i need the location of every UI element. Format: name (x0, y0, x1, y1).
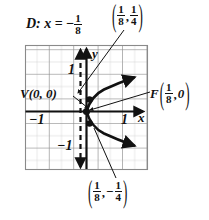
tick-label-x-negative: −1 (29, 112, 44, 128)
directrix-variable: x (44, 16, 51, 31)
directrix-numerator: 1 (74, 13, 82, 24)
directrix-label: D: x = −18 (26, 13, 82, 36)
point-upper-x-fraction: 18 (117, 4, 125, 27)
point-lower-x-fraction: 18 (93, 180, 101, 203)
directrix-equals: = (55, 16, 63, 31)
point-lower-comma: , (102, 185, 105, 203)
focus-y: 0 (178, 86, 185, 102)
tick-label-y-negative: −1 (57, 138, 72, 154)
vertex-label: V(0, 0) (20, 86, 57, 102)
paren-open: ( (112, 0, 116, 36)
point-lower-x-den: 8 (93, 191, 101, 203)
point-lower-x-num: 1 (93, 180, 101, 191)
focus-label: F(18,0) (150, 82, 190, 105)
directrix-denominator: 8 (74, 24, 82, 36)
point-lower-y-num: 1 (115, 180, 123, 191)
vertex-point (83, 108, 90, 115)
paren-close: ) (123, 172, 127, 212)
point-upper-y-den: 4 (130, 15, 138, 27)
point-upper-x-den: 8 (117, 15, 125, 27)
point-upper-y-num: 1 (130, 4, 138, 15)
point-lower (86, 120, 92, 126)
point-upper-y-fraction: 14 (130, 4, 138, 27)
point-upper (86, 96, 92, 102)
directrix-fraction: 18 (74, 13, 82, 36)
directrix-prefix: D: (26, 16, 41, 31)
point-lower-y-fraction: 14 (115, 180, 123, 203)
focus-comma: , (174, 87, 177, 105)
axis-label-y: y (92, 46, 98, 62)
point-upper-label: (18,14) (112, 4, 143, 27)
paren-open: ( (88, 172, 92, 212)
focus-x-fraction: 18 (165, 82, 173, 105)
point-lower-sign: − (106, 184, 113, 200)
tick-label-y-positive: 1 (68, 62, 75, 78)
paren-close: ) (139, 0, 143, 36)
point-lower-label: (18,−14) (88, 180, 127, 203)
axis-label-x: x (138, 110, 145, 126)
focus-x-den: 8 (165, 93, 173, 105)
point-upper-x-num: 1 (117, 4, 125, 15)
focus-x-num: 1 (165, 82, 173, 93)
point-lower-y-den: 4 (115, 191, 123, 203)
directrix-sign: − (66, 16, 74, 31)
tick-label-x-positive: 1 (121, 112, 128, 128)
point-upper-comma: , (126, 9, 129, 27)
paren-close: ) (185, 74, 189, 114)
focus-name: F (150, 86, 159, 102)
paren-open: ( (160, 74, 164, 114)
